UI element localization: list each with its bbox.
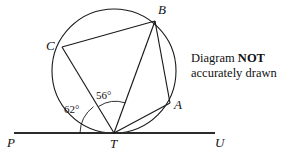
point-label-A: A [174,98,182,111]
diagram-canvas: A B C T P U 62° 56° Diagram NOT accurate… [0,0,287,157]
segment-TA [114,103,170,133]
angle-arc-56 [99,101,126,106]
point-label-B: B [158,3,166,16]
note-prefix: Diagram [191,51,238,65]
note-line-2: accurately drawn [191,66,285,81]
point-label-P: P [7,136,15,149]
point-label-U: U [215,136,224,149]
chord-CB [62,21,155,47]
chord-BA [155,21,170,103]
point-label-T: T [110,137,117,150]
angle-label-62: 62° [64,104,79,115]
point-label-C: C [46,39,55,52]
segment-TB [114,21,155,133]
angle-label-56: 56° [96,90,111,101]
note-emphasis: NOT [238,51,265,65]
note-line-1: Diagram NOT [191,51,285,66]
diagram-note: Diagram NOT accurately drawn [191,51,285,82]
